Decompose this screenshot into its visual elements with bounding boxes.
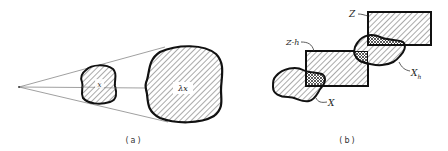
- panel-b: Z Z-h Xh X (b): [273, 9, 431, 145]
- panel-a: x λx (a): [18, 46, 222, 145]
- label-X-h: Xh: [410, 68, 421, 80]
- label-X-h-subscript: h: [417, 73, 421, 80]
- label-Z: Z: [348, 9, 356, 19]
- caption-a: (a): [125, 136, 142, 145]
- set-lambda-x-label: λx: [177, 84, 188, 93]
- label-Z-minus-h: Z-h: [285, 38, 299, 47]
- caption-b: (b): [339, 136, 356, 145]
- figure-canvas: x λx (a): [0, 0, 448, 151]
- set-x-label: x: [98, 81, 102, 89]
- origin-point: [18, 86, 20, 88]
- label-X: X: [327, 98, 335, 108]
